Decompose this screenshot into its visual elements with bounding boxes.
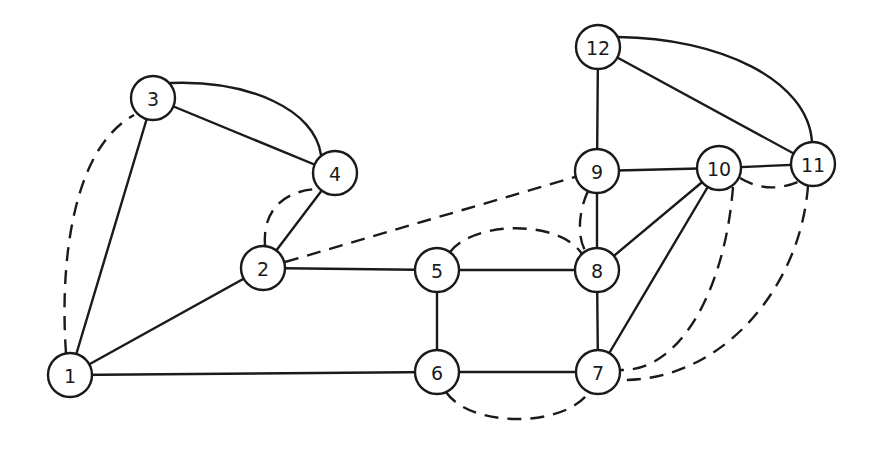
node-label: 7 bbox=[592, 362, 604, 384]
node-3: 3 bbox=[131, 76, 175, 120]
node-label: 9 bbox=[591, 161, 603, 183]
node-label: 12 bbox=[586, 37, 610, 59]
edge-5-8-dashed bbox=[450, 228, 582, 254]
node-label: 2 bbox=[257, 258, 269, 280]
edge-1-6-solid bbox=[70, 372, 437, 375]
nodes-layer: 123456789101112 bbox=[48, 25, 835, 397]
edge-1-3-dashed bbox=[65, 115, 134, 353]
node-label: 11 bbox=[801, 154, 825, 176]
node-label: 6 bbox=[431, 362, 443, 384]
edge-10-11-dashed bbox=[740, 178, 800, 187]
node-11: 11 bbox=[791, 142, 835, 186]
node-label: 10 bbox=[707, 158, 731, 180]
edge-2-4-dashed bbox=[265, 189, 318, 246]
node-4: 4 bbox=[313, 151, 357, 195]
edge-2-5-solid bbox=[263, 268, 437, 270]
node-6: 6 bbox=[415, 350, 459, 394]
node-5: 5 bbox=[415, 248, 459, 292]
node-8: 8 bbox=[575, 248, 619, 292]
node-10: 10 bbox=[697, 146, 741, 190]
node-1: 1 bbox=[48, 353, 92, 397]
graph-diagram: 123456789101112 bbox=[0, 0, 879, 452]
node-2: 2 bbox=[241, 246, 285, 290]
node-7: 7 bbox=[576, 350, 620, 394]
edge-11-7-dashed bbox=[620, 186, 808, 380]
node-label: 3 bbox=[147, 88, 159, 110]
edge-12-11-solid bbox=[598, 47, 813, 164]
node-label: 5 bbox=[431, 260, 443, 282]
edge-9-8-dashed bbox=[580, 191, 588, 252]
edge-10-7-dashed bbox=[620, 187, 733, 370]
edge-1-2-solid bbox=[70, 268, 263, 375]
node-label: 4 bbox=[329, 163, 341, 185]
edge-3-4-solid bbox=[170, 83, 321, 155]
node-label: 1 bbox=[64, 365, 76, 387]
edge-6-7-dashed bbox=[446, 392, 589, 419]
node-9: 9 bbox=[575, 149, 619, 193]
edge-1-3-solid bbox=[70, 98, 153, 375]
node-label: 8 bbox=[591, 260, 603, 282]
edge-12-11-solid bbox=[618, 37, 812, 142]
node-12: 12 bbox=[576, 25, 620, 69]
edge-3-4-solid bbox=[153, 98, 335, 173]
